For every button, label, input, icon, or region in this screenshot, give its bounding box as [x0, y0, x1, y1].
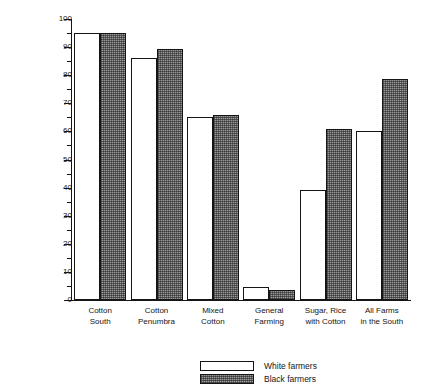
- y-tick-minor: [67, 202, 71, 203]
- bar: [187, 117, 213, 300]
- x-axis-category-label-line: All Farms: [348, 305, 416, 316]
- y-tick-label: 90: [20, 43, 72, 51]
- bar: [326, 129, 352, 300]
- bar: [382, 79, 408, 300]
- x-axis-line: [71, 300, 411, 301]
- x-axis-category-labels: CottonSouthCottonPenumbraMixedCottonGene…: [72, 305, 410, 345]
- y-tick-label: 10: [20, 268, 72, 276]
- y-tick-minor: [67, 230, 71, 231]
- bar: [100, 33, 126, 300]
- plot-area: Percent of farms: [72, 19, 410, 300]
- y-tick-minor: [67, 174, 71, 175]
- y-tick-minor: [67, 117, 71, 118]
- bar: [356, 131, 382, 300]
- y-tick-label: 0: [20, 296, 72, 304]
- y-tick-minor: [67, 89, 71, 90]
- y-tick-minor: [67, 33, 71, 34]
- bar: [131, 58, 157, 300]
- y-tick-label: 20: [20, 240, 72, 248]
- bar: [74, 33, 100, 300]
- y-tick-minor: [67, 258, 71, 259]
- y-tick-label: 100: [20, 15, 72, 23]
- chart-legend: White farmers Black farmers: [200, 360, 390, 386]
- legend-entry-black-farmers: Black farmers: [200, 373, 316, 384]
- y-tick-label: 50: [20, 156, 72, 164]
- x-axis-category-label-line: in the South: [348, 316, 416, 327]
- legend-swatch-black-farmers: [200, 374, 254, 384]
- legend-label-white-farmers: White farmers: [264, 361, 317, 371]
- y-tick-label: 70: [20, 99, 72, 107]
- bar-chart: 0102030405060708090100 Percent of farms …: [0, 0, 423, 390]
- y-tick-minor: [67, 61, 71, 62]
- y-axis-ticks: 0102030405060708090100: [0, 0, 72, 390]
- y-tick-minor: [67, 145, 71, 146]
- y-tick-label: 80: [20, 71, 72, 79]
- legend-label-black-farmers: Black farmers: [264, 374, 316, 384]
- bar: [213, 115, 239, 300]
- y-tick-minor: [67, 286, 71, 287]
- y-tick-label: 60: [20, 127, 72, 135]
- bar: [243, 287, 269, 300]
- legend-swatch-white-farmers: [200, 361, 254, 371]
- bar: [300, 190, 326, 300]
- bar: [157, 49, 183, 300]
- legend-entry-white-farmers: White farmers: [200, 360, 317, 371]
- y-tick-label: 30: [20, 212, 72, 220]
- x-axis-category-label: All Farmsin the South: [348, 305, 416, 327]
- y-tick-label: 40: [20, 184, 72, 192]
- bar: [269, 290, 295, 300]
